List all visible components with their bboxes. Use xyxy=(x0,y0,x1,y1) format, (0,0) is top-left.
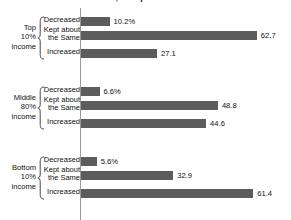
bar-row: Increased61.4 xyxy=(0,188,291,200)
bar-category-label: Increased xyxy=(32,118,80,126)
bar xyxy=(81,171,173,180)
bar-category-label: Kept about the Same xyxy=(32,26,80,43)
bar-category-label: Increased xyxy=(32,188,80,196)
bar-category-label: Decreased xyxy=(32,86,80,94)
bar-row: Increased27.1 xyxy=(0,48,291,60)
bar xyxy=(81,17,110,26)
bar-category-label: Kept about the Same xyxy=(32,96,80,113)
bar-group: Bottom10%incomeDecreased5.6%Kept about t… xyxy=(0,156,291,204)
bar-row: Kept about the Same32.9 xyxy=(0,170,291,182)
bar-category-label: Kept about the Same xyxy=(32,166,80,183)
bar xyxy=(81,189,253,198)
bar xyxy=(81,87,100,96)
chart-container: decreased, or kept about the same? Top10… xyxy=(0,0,291,220)
bar-value-label: 27.1 xyxy=(161,49,176,58)
bar xyxy=(81,49,157,58)
bar xyxy=(81,31,257,40)
bar-value-label: 44.6 xyxy=(210,119,225,128)
bar-row: Increased44.6 xyxy=(0,118,291,130)
bar-group: Middle80%incomeDecreased6.6%Kept about t… xyxy=(0,86,291,134)
bar xyxy=(81,157,97,166)
bar-value-label: 62.7 xyxy=(261,31,276,40)
plot-area: Top10%incomeDecreased10.2%Kept about the… xyxy=(0,0,291,220)
bar-category-label: Decreased xyxy=(32,16,80,24)
bar-row: Kept about the Same48.8 xyxy=(0,100,291,112)
bar-value-label: 6.6% xyxy=(104,87,121,96)
bar-category-label: Decreased xyxy=(32,156,80,164)
bar-value-label: 10.2% xyxy=(114,17,136,26)
bar xyxy=(81,101,218,110)
bar-row: Kept about the Same62.7 xyxy=(0,30,291,42)
bar xyxy=(81,119,206,128)
bar-group: Top10%incomeDecreased10.2%Kept about the… xyxy=(0,16,291,64)
bar-value-label: 32.9 xyxy=(177,171,192,180)
bar-category-label: Increased xyxy=(32,48,80,56)
bar-value-label: 5.6% xyxy=(101,157,118,166)
bar-value-label: 48.8 xyxy=(222,101,237,110)
bar-value-label: 61.4 xyxy=(257,189,272,198)
